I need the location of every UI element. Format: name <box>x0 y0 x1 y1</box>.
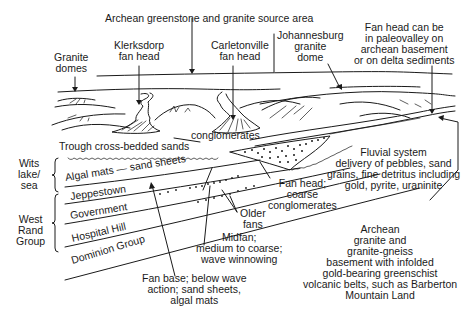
label-granite-domes: Granite domes <box>54 52 88 74</box>
label-line: algal mats <box>142 295 246 306</box>
horizon-line-top <box>97 72 452 76</box>
label-line: Group <box>16 236 45 247</box>
label-fan-base: Fan base; below wave action; sand sheets… <box>142 273 246 306</box>
label-fan-head-paleovalley: Fan head can be in paleovalley on archea… <box>354 22 454 66</box>
horizon-line-second <box>58 89 280 92</box>
label-line: dome <box>277 52 344 63</box>
label-conglomerates: conglomerates <box>191 130 260 141</box>
label-line: or on delta sediments <box>354 55 454 66</box>
label-line: fan head <box>114 51 164 62</box>
label-johannesburg: Johannesburg granite dome <box>277 30 344 63</box>
label-fluvial-system: Fluvial system delivery of pebbles, sand… <box>327 147 460 191</box>
label-line: wave winnowing <box>196 254 282 265</box>
label-line: Mountain Land <box>303 290 457 301</box>
label-carletonville: Carletonville fan head <box>211 40 269 62</box>
fluvial-channel <box>250 106 455 140</box>
granite-dome-hill <box>58 98 95 101</box>
label-west-rand-group: West Rand Group <box>16 214 45 247</box>
label-basement: Archean granite and granite-gneiss basem… <box>303 224 457 301</box>
label-wits-group: Wits lake/ sea <box>18 158 40 191</box>
label-line: conglomerates <box>268 200 337 211</box>
label-line: fan head <box>211 51 269 62</box>
label-fan-head-coarse: Fan head; coarse conglomerates <box>268 178 337 211</box>
label-klerksdorp: Klerksdorp fan head <box>114 40 164 62</box>
label-source-area: Archean greenstone and granite source ar… <box>105 13 313 24</box>
label-line: gold, pyrite, uraninite <box>327 180 460 191</box>
west-rand-bracket <box>52 194 58 252</box>
horizon-line-third <box>330 86 420 88</box>
label-line: domes <box>54 63 88 74</box>
label-trough-sands: Trough cross-bedded sands <box>59 141 189 152</box>
label-line: sea <box>18 180 40 191</box>
label-line: fans <box>240 219 266 230</box>
wits-bracket <box>52 158 58 192</box>
carletonville-fan <box>212 92 260 133</box>
label-midfan: Midfan; medium to coarse; wave winnowing <box>196 232 282 265</box>
label-older-fans: Older fans <box>240 208 266 230</box>
granite-dome-hill <box>55 104 115 108</box>
